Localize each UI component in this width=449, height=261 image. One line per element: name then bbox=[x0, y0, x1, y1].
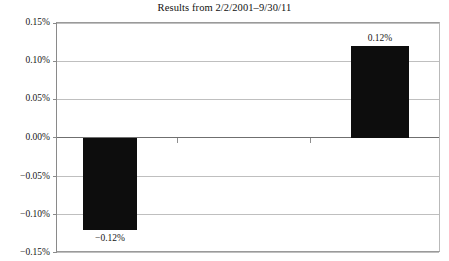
y-tick-2 bbox=[53, 99, 57, 100]
y-axis-label-0: 0.15% bbox=[0, 17, 50, 27]
bar-positive[interactable] bbox=[351, 46, 409, 138]
chart-title: Results from 2/2/2001–9/30/11 bbox=[0, 1, 449, 14]
y-tick-1 bbox=[53, 61, 57, 62]
y-tick-5 bbox=[53, 214, 57, 215]
y-axis-label-2: 0.05% bbox=[0, 93, 50, 103]
y-tick-3 bbox=[53, 137, 57, 138]
bar-negative[interactable] bbox=[83, 138, 137, 230]
y-tick-0 bbox=[53, 23, 57, 24]
y-axis-label-3: 0.00% bbox=[0, 132, 50, 142]
x-tick-2 bbox=[310, 138, 311, 143]
y-axis-label-6: −0.15% bbox=[0, 247, 50, 257]
y-tick-6 bbox=[53, 252, 57, 253]
gridline--0.15 bbox=[57, 252, 439, 253]
bar-label-positive: 0.12% bbox=[368, 33, 393, 44]
y-axis-label-5: −0.10% bbox=[0, 209, 50, 219]
plot-area: −0.12% 0.12% bbox=[56, 22, 440, 252]
gridline-0.15 bbox=[57, 23, 439, 24]
y-axis-label-4: −0.05% bbox=[0, 171, 50, 181]
bar-label-negative: −0.12% bbox=[95, 233, 125, 244]
y-tick-4 bbox=[53, 176, 57, 177]
y-axis-label-1: 0.10% bbox=[0, 55, 50, 65]
x-tick-1 bbox=[177, 138, 178, 143]
